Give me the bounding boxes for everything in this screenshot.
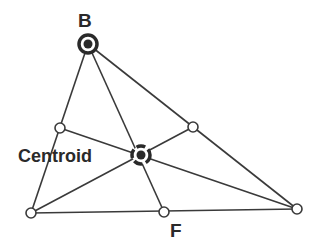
centroid-diagram: B Centroid F (0, 0, 323, 246)
vertex-b-marker (79, 35, 97, 53)
medians (31, 44, 297, 213)
midpoint-f-label: F (170, 220, 182, 241)
vertex-a-marker (26, 208, 36, 218)
vertex-c-marker (292, 204, 302, 214)
midpoint-f-marker (159, 207, 169, 217)
point-markers (26, 122, 302, 218)
centroid-marker (132, 146, 150, 164)
midpoint-ab-marker (55, 123, 65, 133)
vertex-b-label: B (78, 10, 92, 31)
median-from-b (88, 44, 164, 212)
triangle-edges (31, 44, 297, 213)
median-from-c (60, 128, 297, 209)
midpoint-bc-marker (188, 122, 198, 132)
centroid-label: Centroid (18, 146, 92, 166)
